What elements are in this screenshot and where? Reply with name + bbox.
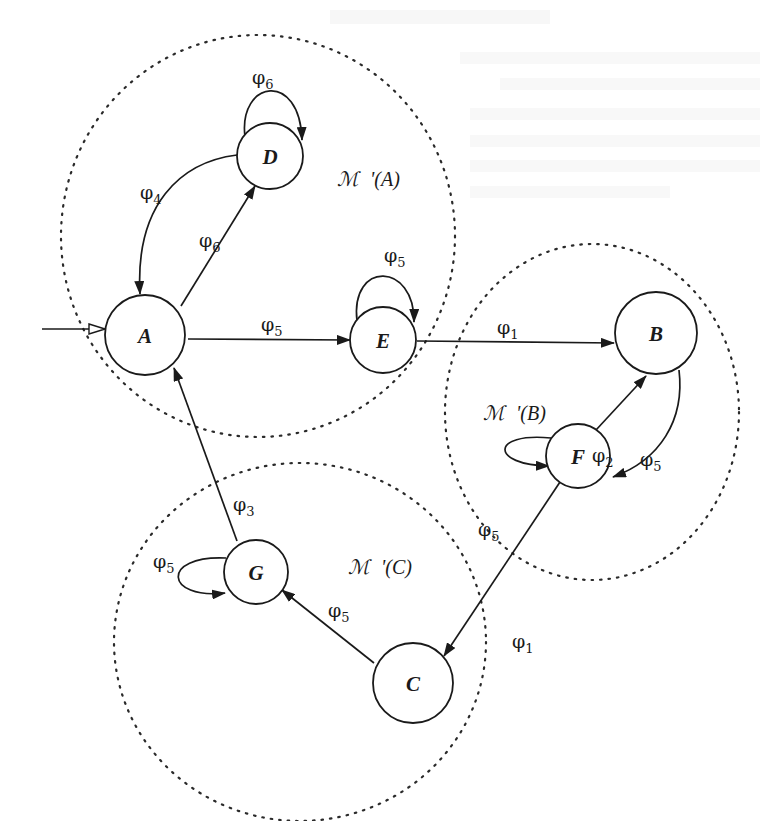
edge-g-a xyxy=(174,368,237,541)
label-edge-f-f: φ5 xyxy=(478,518,500,544)
svg-text:E: E xyxy=(375,329,390,353)
edge-g-g xyxy=(178,558,226,594)
label-edge-g-a: φ3 xyxy=(233,493,255,519)
state-diagram: A D E B F G C φ6 φ4 φ6 φ5 φ5 φ1 φ2 φ5 φ5… xyxy=(0,0,771,821)
node-d: D xyxy=(237,123,303,189)
region-label-m-b: ℳ'(B) xyxy=(483,402,546,425)
region-m-c-boundary xyxy=(114,463,486,821)
node-a: A xyxy=(105,295,185,375)
svg-text:D: D xyxy=(261,145,277,169)
edge-d-a xyxy=(140,155,237,294)
node-c: C xyxy=(373,643,453,723)
edge-f-c xyxy=(444,482,560,656)
label-edge-e-b: φ1 xyxy=(497,316,519,342)
node-g: G xyxy=(224,540,288,604)
label-edge-d-a: φ4 xyxy=(140,181,162,207)
label-edge-g-g: φ5 xyxy=(153,550,175,576)
edge-f-b xyxy=(596,376,646,430)
svg-text:F: F xyxy=(570,445,585,469)
svg-text:B: B xyxy=(648,322,663,346)
label-edge-a-d: φ6 xyxy=(199,229,221,255)
node-b: B xyxy=(615,292,697,374)
label-edge-a-e: φ5 xyxy=(261,313,283,339)
label-edge-b-f: φ5 xyxy=(640,448,662,474)
label-edge-e-e: φ5 xyxy=(384,244,406,270)
label-edge-c-g: φ5 xyxy=(328,599,350,625)
label-edge-f-c: φ1 xyxy=(512,630,534,656)
edge-a-e xyxy=(188,339,350,340)
svg-text:A: A xyxy=(136,324,152,348)
label-edge-d-d: φ6 xyxy=(252,66,274,92)
edge-f-f xyxy=(505,437,551,466)
svg-text:C: C xyxy=(406,672,421,696)
region-label-m-a: ℳ'(A) xyxy=(337,168,400,191)
node-e: E xyxy=(350,307,416,373)
svg-text:G: G xyxy=(248,561,263,585)
region-label-m-c: ℳ'(C) xyxy=(348,556,412,579)
